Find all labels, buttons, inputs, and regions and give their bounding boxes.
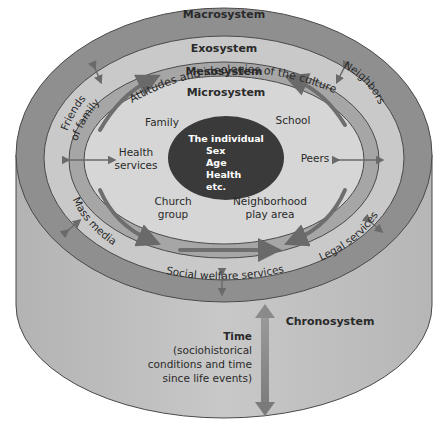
church-group-label-2: group bbox=[158, 208, 189, 220]
chronosystem-label: Chronosystem bbox=[286, 315, 375, 328]
family-label: Family bbox=[145, 116, 179, 128]
individual-title: The individual bbox=[188, 133, 264, 144]
health-services-label-1: Health bbox=[119, 146, 153, 158]
peers-label: Peers bbox=[301, 152, 330, 164]
health-services-label-2: services bbox=[114, 159, 157, 171]
neighborhood-label-1: Neighborhood bbox=[233, 195, 307, 207]
individual-attr-age: Age bbox=[206, 157, 227, 168]
church-group-label-1: Church bbox=[154, 195, 191, 207]
time-line-2: conditions and time bbox=[148, 358, 252, 370]
mesosystem-label: Mesosystem bbox=[186, 65, 263, 78]
individual-attr-sex: Sex bbox=[206, 145, 225, 156]
time-title: Time bbox=[223, 330, 252, 342]
individual-attr-etc: etc. bbox=[206, 181, 226, 192]
macrosystem-label: Macrosystem bbox=[183, 8, 265, 21]
microsystem-label: Microsystem bbox=[187, 86, 266, 99]
individual-attr-health: Health bbox=[206, 169, 242, 180]
time-line-1: (sociohistorical bbox=[173, 344, 252, 356]
time-line-3: since life events) bbox=[163, 372, 252, 384]
exosystem-label: Exosystem bbox=[191, 42, 258, 55]
school-label: School bbox=[276, 114, 311, 126]
ecological-systems-diagram: Macrosystem Attitudes and ideologies of … bbox=[0, 0, 448, 438]
neighborhood-label-2: play area bbox=[246, 208, 295, 220]
